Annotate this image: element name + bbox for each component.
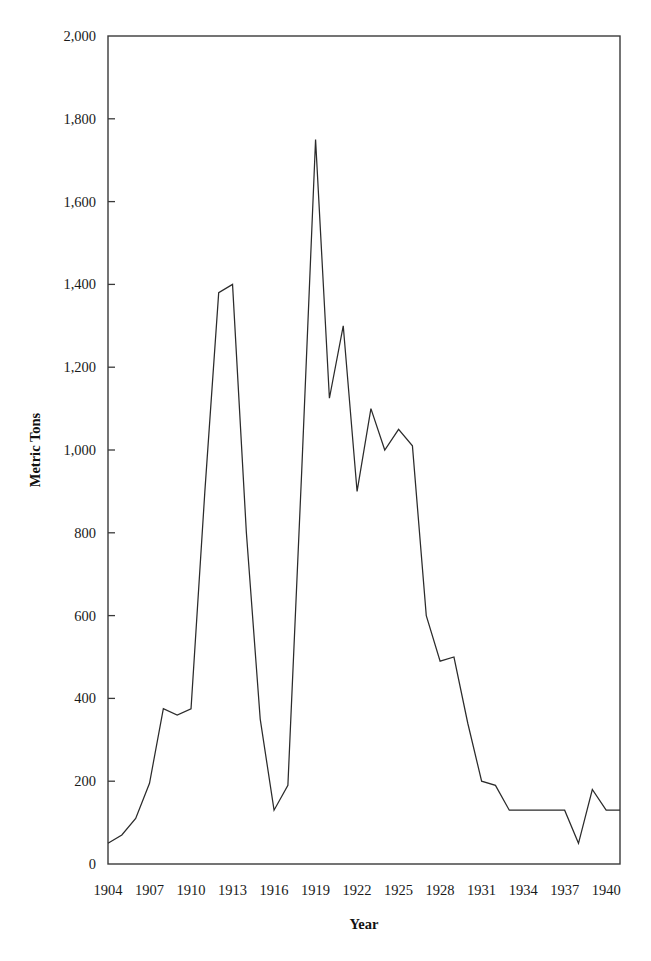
x-axis-tick-label: 1919 xyxy=(301,882,330,898)
y-axis-tick-labels: 02004006008001,0001,2001,4001,6001,8002,… xyxy=(63,28,96,872)
data-series-line xyxy=(108,140,620,844)
x-axis-tick-label: 1913 xyxy=(218,882,247,898)
x-axis-tick-label: 1937 xyxy=(550,882,579,898)
y-axis-tick-label: 600 xyxy=(74,608,96,624)
y-axis-tick-label: 1,200 xyxy=(63,359,96,375)
x-axis-tick-label: 1928 xyxy=(426,882,455,898)
y-axis-tick-label: 400 xyxy=(74,690,96,706)
y-axis-tick-label: 0 xyxy=(89,856,96,872)
x-axis-tick-label: 1916 xyxy=(260,882,289,898)
x-axis-tick-label: 1934 xyxy=(509,882,539,898)
x-axis-tick-label: 1925 xyxy=(384,882,413,898)
x-axis-tick-label: 1910 xyxy=(177,882,206,898)
y-axis-tick-label: 2,000 xyxy=(63,28,96,44)
y-axis-title: Metric Tons xyxy=(27,412,43,487)
y-axis-tick-label: 1,400 xyxy=(63,276,96,292)
y-axis-tick-label: 1,000 xyxy=(63,442,96,458)
x-axis-tick-label: 1940 xyxy=(592,882,621,898)
y-axis-tick-label: 800 xyxy=(74,525,96,541)
y-axis-tick-marks xyxy=(108,119,115,781)
y-axis-tick-label: 200 xyxy=(74,773,96,789)
x-axis-tick-label: 1922 xyxy=(343,882,372,898)
y-axis-tick-label: 1,800 xyxy=(63,111,96,127)
x-axis-tick-label: 1907 xyxy=(135,882,164,898)
x-axis-tick-label: 1904 xyxy=(94,882,124,898)
x-axis-tick-labels: 1904190719101913191619191922192519281931… xyxy=(94,882,621,898)
x-axis-tick-label: 1931 xyxy=(467,882,496,898)
y-axis-tick-label: 1,600 xyxy=(63,194,96,210)
chart-figure: 02004006008001,0001,2001,4001,6001,8002,… xyxy=(0,0,651,961)
line-chart-svg: 02004006008001,0001,2001,4001,6001,8002,… xyxy=(0,0,651,961)
x-axis-title: Year xyxy=(350,916,380,932)
